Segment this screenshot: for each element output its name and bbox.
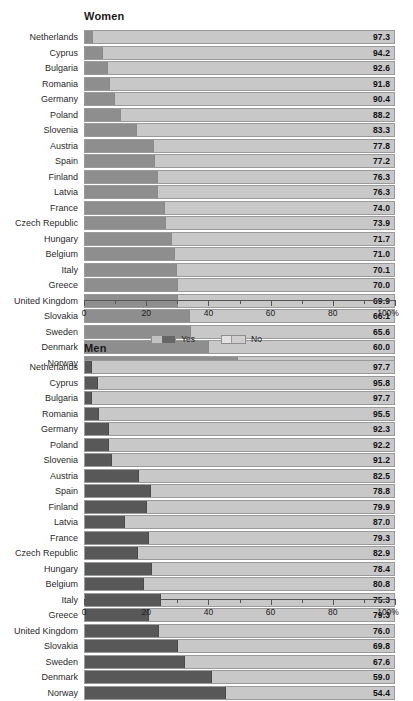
bar-segment-yes [85,439,109,451]
axis-tick-major [395,599,396,605]
bar-row: Slovakia69.8 [0,639,413,653]
bar-row-label: Romania [0,77,78,91]
bar-track: 91.8 [84,77,395,91]
axis-tick-label: 60 [266,308,275,318]
bar-segment-yes [85,454,112,466]
bar-segment-yes [85,155,155,167]
bar-row-label: Italy [0,593,78,607]
bar-segment-yes [85,392,92,404]
bar-row-label: Slovakia [0,309,78,323]
bar-track: 97.7 [84,360,395,374]
bar-segment-yes [85,62,108,74]
bar-row-label: Spain [0,154,78,168]
bar-track: 69.8 [84,639,395,653]
bar-row: Finland76.3 [0,170,413,184]
bar-row: Norway54.4 [0,686,413,700]
bar-track: 54.4 [84,686,395,700]
bar-segment-yes [85,361,92,373]
bar-segment-yes [85,171,158,183]
bar-row-label: Cyprus [0,46,78,60]
bar-row: Italy70.1 [0,263,413,277]
bar-track: 88.2 [84,108,395,122]
bar-row: Czech Republic73.9 [0,216,413,230]
bar-value-label: 92.3 [373,423,390,435]
bar-row: Czech Republic82.9 [0,546,413,560]
bar-value-label: 79.9 [373,501,390,513]
bar-track: 92.6 [84,61,395,75]
legend-label-yes: Yes [181,334,195,344]
bar-track: 95.8 [84,376,395,390]
bar-row-label: France [0,201,78,215]
bar-row: Romania95.5 [0,407,413,421]
bar-value-label: 97.7 [373,392,390,404]
axis-tick-minor [364,599,365,603]
bar-row: Hungary71.7 [0,232,413,246]
bar-track: 74.0 [84,201,395,215]
bar-track: 79.3 [84,531,395,545]
bar-value-label: 77.2 [373,155,390,167]
bar-value-label: 80.8 [373,578,390,590]
bar-track: 82.9 [84,546,395,560]
bar-segment-yes [85,470,139,482]
bar-value-label: 76.3 [373,171,390,183]
bar-row-label: Slovakia [0,639,78,653]
bar-row: Latvia76.3 [0,185,413,199]
bar-track: 92.2 [84,438,395,452]
bar-segment-yes [85,47,103,59]
bar-track: 77.8 [84,139,395,153]
bar-value-label: 97.7 [373,361,390,373]
chart-title-women: Women [84,10,125,22]
bar-row: Bulgaria92.6 [0,61,413,75]
axis-tick-label: 100% [377,308,399,318]
bar-segment-yes [85,202,165,214]
bar-track: 67.6 [84,655,395,669]
bar-value-label: 92.2 [373,439,390,451]
bar-value-label: 77.8 [373,140,390,152]
bar-row: Cyprus95.8 [0,376,413,390]
bar-row-label: Slovenia [0,453,78,467]
legend-item-yes: Yes [151,334,195,344]
bar-row-label: Latvia [0,185,78,199]
bar-row: Austria82.5 [0,469,413,483]
bar-value-label: 78.8 [373,485,390,497]
bar-row: Belgium71.0 [0,247,413,261]
bar-row-label: Czech Republic [0,546,78,560]
bar-value-label: 79.3 [373,532,390,544]
bar-row: Poland88.2 [0,108,413,122]
bar-segment-yes [85,233,172,245]
bar-row: Greece70.0 [0,278,413,292]
axis-tick-label: 60 [266,607,275,617]
chart-title-men: Men [84,342,107,354]
bar-row-label: Czech Republic [0,216,78,230]
axis-tick-minor [115,599,116,603]
bar-row-label: Austria [0,139,78,153]
bar-track: 79.9 [84,500,395,514]
bar-row: Cyprus94.2 [0,46,413,60]
bar-segment-yes [85,687,226,699]
axis-tick-major [84,300,85,306]
bar-track: 80.8 [84,577,395,591]
bar-value-label: 70.0 [373,279,390,291]
bar-value-label: 90.4 [373,93,390,105]
bar-track: 82.5 [84,469,395,483]
bar-row-label: Belgium [0,247,78,261]
bar-row-label: Finland [0,170,78,184]
axis-tick-label: 20 [141,607,150,617]
x-axis-men: 020406080100% [84,599,395,623]
bar-segment-yes [85,532,149,544]
bar-value-label: 69.8 [373,640,390,652]
bar-track: 90.4 [84,92,395,106]
bar-value-label: 91.2 [373,454,390,466]
bar-row: Slovenia91.2 [0,453,413,467]
bar-row: Germany90.4 [0,92,413,106]
bar-value-label: 76.3 [373,186,390,198]
bar-value-label: 94.2 [373,47,390,59]
axis-tick-major [208,599,209,605]
bar-row: Spain78.8 [0,484,413,498]
bar-track: 59.0 [84,670,395,684]
bar-row-label: Norway [0,686,78,700]
bar-row-label: Sweden [0,655,78,669]
axis-tick-minor [240,300,241,304]
bar-segment-yes [85,423,109,435]
axis-tick-major [84,599,85,605]
